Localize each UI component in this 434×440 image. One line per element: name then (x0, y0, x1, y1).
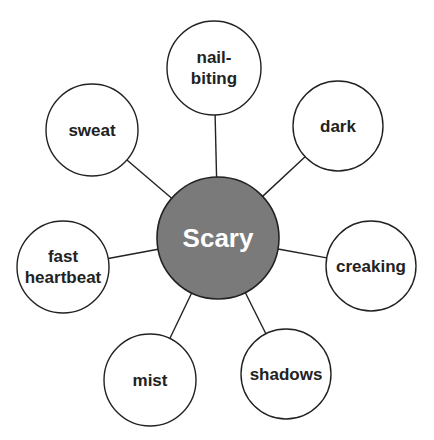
node-shadows: shadows (241, 329, 331, 419)
node-label: creaking (336, 257, 406, 276)
connector-fast-heartbeat (108, 249, 158, 258)
node-circle (17, 221, 109, 313)
node-label: biting (191, 69, 237, 88)
node-circle (167, 21, 261, 115)
diagram-canvas: nail-bitingdarkcreakingshadowsmistfasthe… (0, 0, 434, 440)
node-fast-heartbeat: fastheartbeat (17, 221, 109, 313)
node-label: nail- (197, 48, 232, 67)
center-label: Scary (183, 223, 254, 253)
node-label: sweat (68, 121, 116, 140)
connector-sweat (127, 160, 172, 198)
spider-diagram: nail-bitingdarkcreakingshadowsmistfasthe… (0, 0, 434, 440)
node-sweat: sweat (46, 84, 138, 176)
node-label: fast (48, 247, 79, 266)
connector-mist (170, 293, 192, 338)
connector-shadows (245, 293, 266, 334)
node-creaking: creaking (326, 221, 416, 311)
node-dark: dark (293, 81, 383, 171)
node-nail-biting: nail-biting (167, 21, 261, 115)
connector-nail-biting (215, 115, 216, 177)
connector-dark (263, 157, 306, 197)
node-mist: mist (104, 334, 196, 426)
node-label: shadows (250, 365, 323, 384)
node-label: dark (320, 117, 356, 136)
center-node: Scary (157, 177, 279, 299)
node-label: heartbeat (25, 268, 102, 287)
node-label: mist (133, 371, 168, 390)
connector-creaking (278, 249, 327, 258)
